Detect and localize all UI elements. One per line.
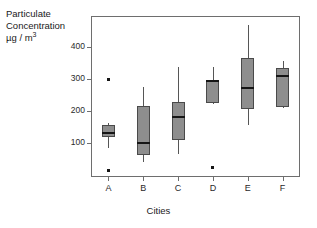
median-line	[206, 80, 219, 82]
x-axis-tick-mark	[283, 177, 284, 181]
y-axis-unit: µg / m	[6, 32, 33, 43]
box-rect	[172, 102, 185, 141]
median-line	[102, 132, 115, 134]
median-line	[276, 75, 289, 77]
x-axis-tick-label-b: B	[131, 183, 155, 193]
outlier-point	[107, 169, 110, 172]
y-axis-title: Particulate Concentration µg / m3	[6, 8, 65, 45]
x-axis-tick-mark	[178, 177, 179, 181]
median-line	[172, 116, 185, 118]
median-line	[241, 87, 254, 89]
y-axis-tick-label: 100	[55, 137, 85, 147]
x-axis-tick-mark	[143, 177, 144, 181]
y-axis-tick-label: 300	[55, 73, 85, 83]
box-rect	[276, 68, 289, 107]
y-axis-unit-exponent: 3	[33, 31, 37, 38]
box-rect	[241, 58, 254, 109]
x-axis-tick-label-e: E	[236, 183, 260, 193]
y-axis-tick-label: 200	[55, 105, 85, 115]
x-axis-title: Cities	[0, 205, 317, 216]
y-axis-tick-mark	[87, 111, 91, 112]
y-axis-tick-label: 400	[55, 41, 85, 51]
box-rect	[102, 125, 115, 136]
y-axis-title-line2: Concentration	[6, 20, 65, 31]
outlier-point	[211, 166, 214, 169]
plot-area-frame	[91, 16, 300, 177]
median-line	[137, 142, 150, 144]
y-axis-title-line3: µg / m3	[6, 32, 37, 43]
x-axis-tick-label-c: C	[166, 183, 190, 193]
outlier-point	[107, 78, 110, 81]
y-axis-tick-mark	[87, 47, 91, 48]
x-axis-tick-label-d: D	[201, 183, 225, 193]
x-axis-tick-mark	[213, 177, 214, 181]
x-axis-tick-label-a: A	[96, 183, 120, 193]
y-axis-tick-mark	[87, 143, 91, 144]
x-axis-tick-label-f: F	[271, 183, 295, 193]
x-axis-tick-mark	[108, 177, 109, 181]
y-axis-title-line1: Particulate	[6, 8, 51, 19]
box-rect	[137, 106, 150, 155]
box-plot-chart: Particulate Concentration µg / m3 100200…	[0, 0, 317, 228]
y-axis-tick-mark	[87, 79, 91, 80]
box-rect	[206, 80, 219, 103]
x-axis-tick-mark	[248, 177, 249, 181]
